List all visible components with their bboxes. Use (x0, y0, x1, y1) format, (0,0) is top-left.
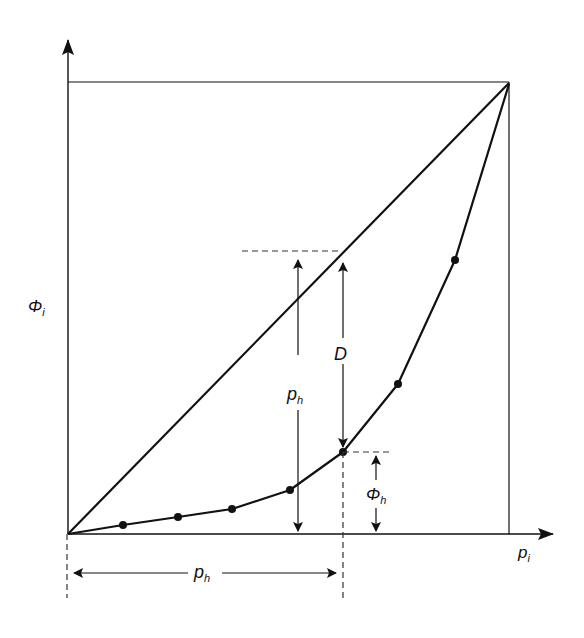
d-label: D (334, 344, 347, 364)
phi-h-label: Φh (366, 485, 386, 506)
curve-point (394, 380, 402, 388)
curve-point (228, 505, 236, 513)
x-axis-label: pi (517, 543, 530, 564)
vertical-ph-label: ph (286, 384, 303, 406)
curve-point (119, 521, 127, 529)
y-axis-label: Φi (28, 297, 45, 318)
equality-line (68, 83, 509, 534)
horizontal-ph-label: ph (193, 562, 210, 584)
curve-point (174, 513, 182, 521)
curve-point (451, 256, 459, 264)
curve-point (286, 486, 294, 494)
lorenz-diagram: ph D Φh ph Φi pi (0, 0, 584, 638)
